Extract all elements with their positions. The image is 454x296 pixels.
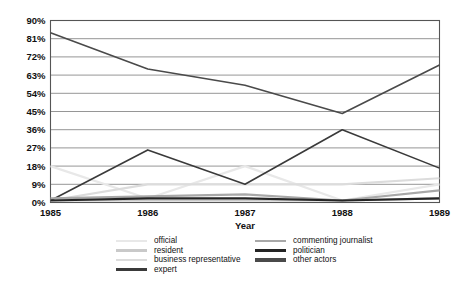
x-tick-label: 1987	[234, 207, 255, 218]
line-chart: 0%9%18%27%36%45%54%63%72%81%90% 19851986…	[0, 0, 454, 296]
legend-label: official	[154, 236, 177, 246]
legend-swatch	[255, 249, 286, 252]
legend-label: commenting journalist	[293, 236, 373, 246]
x-tick-label: 1989	[429, 207, 450, 218]
legend-label: resident	[154, 246, 183, 256]
legend-item[interactable]: business representative	[116, 255, 240, 265]
legend-column-right: commenting journalistpoliticianother act…	[255, 236, 373, 265]
legend-item[interactable]: other actors	[255, 255, 373, 265]
legend-item[interactable]: resident	[116, 246, 240, 256]
y-tick-label: 45%	[26, 106, 46, 117]
data-series-group	[51, 33, 440, 201]
legend-item[interactable]: official	[116, 236, 240, 246]
y-tick-label: 90%	[26, 15, 46, 26]
chart-legend: officialresidentbusiness representativee…	[0, 236, 454, 294]
legend-swatch	[255, 258, 286, 261]
y-tick-label: 9%	[32, 179, 46, 190]
y-tick-label: 63%	[26, 70, 46, 81]
x-axis-title: Year	[235, 220, 255, 231]
legend-swatch	[116, 240, 147, 242]
legend-swatch	[116, 249, 147, 251]
y-tick-label: 27%	[26, 142, 46, 153]
x-axis-tick-labels: 19851986198719881989	[40, 207, 450, 218]
x-axis-title-text: Year	[235, 220, 255, 231]
legend-item[interactable]: politician	[255, 246, 373, 256]
x-tick-label: 1988	[332, 207, 353, 218]
y-tick-label: 54%	[26, 88, 46, 99]
legend-swatch	[116, 259, 147, 261]
x-tick-label: 1986	[137, 207, 158, 218]
legend-label: other actors	[293, 255, 336, 265]
legend-label: expert	[154, 265, 177, 275]
y-axis-tick-labels: 0%9%18%27%36%45%54%63%72%81%90%	[26, 15, 46, 208]
grid-lines	[51, 21, 440, 203]
legend-column-left: officialresidentbusiness representativee…	[116, 236, 240, 274]
x-tick-label: 1985	[40, 207, 62, 218]
y-tick-label: 72%	[26, 51, 46, 62]
legend-label: business representative	[154, 255, 240, 265]
legend-swatch	[116, 268, 147, 271]
plot-area: 0%9%18%27%36%45%54%63%72%81%90% 19851986…	[0, 0, 454, 232]
legend-swatch	[255, 240, 286, 243]
legend-item[interactable]: expert	[116, 265, 240, 275]
legend-label: politician	[293, 246, 325, 256]
series-line-other-actors	[51, 33, 440, 114]
y-tick-label: 81%	[26, 33, 46, 44]
y-tick-label: 18%	[26, 161, 46, 172]
legend-item[interactable]: commenting journalist	[255, 236, 373, 246]
y-tick-label: 36%	[26, 124, 46, 135]
plot-svg: 0%9%18%27%36%45%54%63%72%81%90% 19851986…	[0, 0, 454, 232]
